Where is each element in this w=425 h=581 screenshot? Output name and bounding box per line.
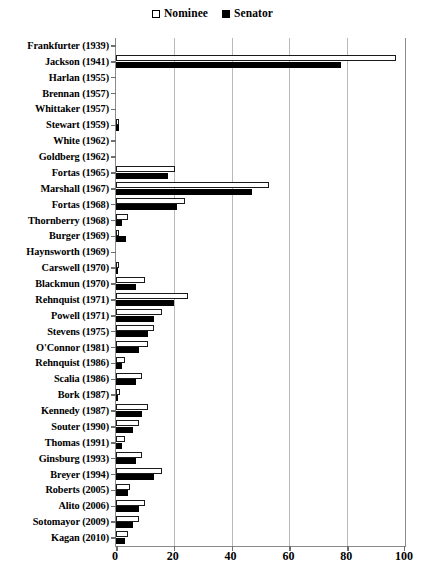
- x-axis-tick-label: 100: [395, 550, 413, 562]
- y-tick-mark: [111, 93, 116, 95]
- bar-senator: [116, 125, 119, 131]
- bar-nominee: [116, 357, 125, 363]
- bar-senator: [116, 379, 136, 385]
- y-axis-label: Bork (1987): [58, 390, 109, 400]
- y-axis-label: Rehnquist (1986): [35, 358, 109, 368]
- y-axis-label: Frankfurter (1939): [27, 41, 109, 51]
- y-axis-label: Ginsburg (1993): [39, 454, 109, 464]
- bar-senator: [116, 474, 154, 480]
- bar-nominee: [116, 389, 120, 395]
- y-axis-label: Brennan (1957): [42, 88, 109, 98]
- plot-area: [115, 38, 406, 547]
- bar-senator: [116, 522, 133, 528]
- bar-senator: [116, 62, 341, 68]
- x-axis-tick-label: 0: [112, 550, 118, 562]
- legend-swatch-nominee-icon: [152, 10, 160, 18]
- bar-senator: [116, 300, 174, 306]
- bar-senator: [116, 173, 168, 179]
- y-axis-label: Souter (1990): [51, 422, 109, 432]
- bar-senator: [116, 490, 128, 496]
- bar-nominee: [116, 262, 119, 268]
- bar-nominee: [116, 166, 175, 172]
- bar-nominee: [116, 404, 148, 410]
- y-tick-mark: [111, 140, 116, 142]
- bar-nominee: [116, 516, 139, 522]
- legend-entry-nominee: Nominee: [152, 8, 208, 20]
- bar-nominee: [116, 309, 162, 315]
- bar-senator: [116, 443, 122, 449]
- bar-senator: [116, 458, 136, 464]
- y-tick-mark: [111, 77, 116, 79]
- y-axis-label: Fortas (1965): [52, 168, 109, 178]
- bar-senator: [116, 363, 122, 369]
- bar-nominee: [116, 420, 139, 426]
- legend-swatch-senator-icon: [222, 10, 230, 18]
- gridline: [289, 38, 290, 546]
- bar-nominee: [116, 452, 142, 458]
- y-axis-label: Alito (2006): [58, 501, 109, 511]
- y-axis-label: Marshall (1967): [40, 184, 109, 194]
- y-axis-label: Goldberg (1962): [39, 152, 109, 162]
- y-axis-label: Thomas (1991): [45, 438, 109, 448]
- gridline: [347, 38, 348, 546]
- bar-nominee: [116, 341, 148, 347]
- bar-chart: Nominee Senator Frankfurter (1939)Jackso…: [0, 0, 425, 581]
- bar-nominee: [116, 182, 269, 188]
- y-axis-label: Kagan (2010): [51, 533, 109, 543]
- bar-senator: [116, 316, 154, 322]
- y-axis-label: Scalia (1986): [54, 374, 109, 384]
- bar-senator: [116, 411, 142, 417]
- bar-senator: [116, 220, 122, 226]
- y-tick-mark: [111, 45, 116, 47]
- y-axis-label: Thornberry (1968): [28, 215, 109, 225]
- y-axis-label: Jackson (1941): [45, 57, 109, 67]
- y-axis-label: Sotomayor (2009): [33, 517, 109, 527]
- bar-senator: [116, 395, 118, 401]
- bar-nominee: [116, 531, 128, 537]
- plot-inner: [116, 38, 405, 546]
- y-axis-label: O'Connor (1981): [36, 342, 109, 352]
- bar-nominee: [116, 198, 185, 204]
- x-axis-tick-label: 60: [282, 550, 294, 562]
- legend-label-senator: Senator: [234, 8, 273, 20]
- bar-nominee: [116, 55, 396, 61]
- bar-senator: [116, 236, 126, 242]
- bar-nominee: [116, 436, 125, 442]
- y-axis-label: Haynsworth (1969): [26, 247, 109, 257]
- bar-senator: [116, 427, 133, 433]
- y-axis-label: Kennedy (1987): [41, 406, 109, 416]
- y-tick-mark: [111, 156, 116, 158]
- bar-senator: [116, 331, 148, 337]
- x-axis-tick-labels: 020406080100: [0, 550, 425, 570]
- y-axis-label: Stevens (1975): [47, 327, 109, 337]
- bar-nominee: [116, 484, 130, 490]
- y-axis-label: Blackmun (1970): [35, 279, 109, 289]
- y-axis-label: Powell (1971): [51, 311, 109, 321]
- bar-nominee: [116, 214, 128, 220]
- bar-senator: [116, 506, 139, 512]
- gridline: [232, 38, 233, 546]
- x-axis-tick-label: 20: [167, 550, 179, 562]
- legend-entry-senator: Senator: [222, 8, 273, 20]
- bar-nominee: [116, 500, 145, 506]
- y-axis-label: Fortas (1968): [52, 200, 109, 210]
- bar-senator: [116, 347, 139, 353]
- bar-nominee: [116, 293, 188, 299]
- bar-senator: [116, 284, 136, 290]
- y-axis-label: Harlan (1955): [49, 73, 109, 83]
- bar-senator: [116, 268, 118, 274]
- plot-wrapper: Frankfurter (1939)Jackson (1941)Harlan (…: [0, 38, 425, 550]
- y-axis-label: Breyer (1994): [50, 469, 109, 479]
- bar-senator: [116, 204, 177, 210]
- bar-nominee: [116, 230, 119, 236]
- y-axis-category-labels: Frankfurter (1939)Jackson (1941)Harlan (…: [0, 38, 113, 546]
- y-axis-label: Whittaker (1957): [35, 104, 109, 114]
- chart-legend: Nominee Senator: [0, 8, 425, 20]
- y-axis-label: Burger (1969): [49, 231, 109, 241]
- bar-senator: [116, 189, 252, 195]
- bar-nominee: [116, 373, 142, 379]
- x-axis-tick-label: 80: [340, 550, 352, 562]
- y-tick-mark: [111, 109, 116, 111]
- legend-label-nominee: Nominee: [164, 8, 208, 20]
- y-axis-label: White (1962): [53, 136, 109, 146]
